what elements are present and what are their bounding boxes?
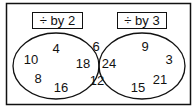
value: 15: [131, 80, 145, 95]
venn-diagram: ÷ by 2 ÷ by 3 4 10 8 16 6 18 24 12 9 3 2…: [0, 0, 196, 111]
value: 16: [54, 80, 68, 95]
value: 10: [24, 52, 38, 67]
label-text-by-2: ÷ by 2: [40, 13, 75, 28]
value: 12: [90, 73, 104, 88]
label-text-by-3: ÷ by 3: [124, 13, 159, 28]
value: 18: [76, 56, 90, 71]
value: 3: [165, 52, 172, 67]
label-divisible-by-3: ÷ by 3: [118, 13, 167, 29]
value: 6: [92, 39, 99, 54]
value: 24: [102, 56, 116, 71]
value: 4: [52, 41, 59, 56]
value: 21: [153, 72, 167, 87]
label-divisible-by-2: ÷ by 2: [33, 13, 83, 29]
value: 9: [141, 39, 148, 54]
value: 8: [34, 71, 41, 86]
